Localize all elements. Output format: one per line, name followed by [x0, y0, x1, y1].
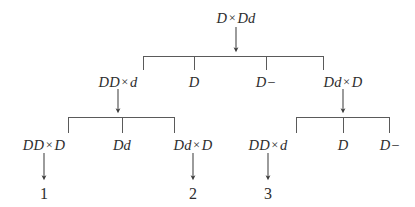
node-row2-2: Dd [113, 138, 131, 153]
node-row2-2-left: Dd [113, 137, 131, 153]
node-row2-4-left: DD [248, 137, 269, 153]
node-row1-1-right: d [130, 74, 137, 90]
node-row2-3: Dd×D [173, 138, 212, 153]
node-row2-1-left: DD [23, 137, 44, 153]
outcome-3: 3 [264, 186, 272, 202]
node-row1-2: D [189, 75, 200, 90]
cross-operator-icon: × [227, 11, 237, 25]
node-row1-1: DD×d [98, 75, 137, 90]
node-row2-3-left: Dd [173, 137, 191, 153]
cross-operator-icon: × [44, 138, 54, 152]
node-row2-4: DD×d [248, 138, 287, 153]
node-row2-6-left: D− [380, 137, 401, 153]
outcome-2: 2 [189, 186, 197, 202]
cross-operator-icon: × [120, 75, 130, 89]
node-row2-3-right: D [202, 137, 213, 153]
node-row2-1: DD×D [23, 138, 65, 153]
node-row1-2-left: D [189, 74, 200, 90]
connector-lines [0, 0, 415, 207]
cross-operator-icon: × [342, 75, 352, 89]
node-row1-4: Dd×D [323, 75, 362, 90]
node-root: D×Dd [216, 11, 255, 26]
node-row2-5-left: D [338, 137, 349, 153]
outcome-1: 1 [40, 186, 48, 202]
node-row1-3-left: D− [256, 74, 277, 90]
node-row2-5: D [338, 138, 349, 153]
node-row2-1-right: D [54, 137, 65, 153]
node-row1-1-left: DD [98, 74, 119, 90]
node-row2-6: D− [380, 138, 401, 153]
cross-tree-diagram: D×Dd DD×d D D− Dd×D DD×D Dd Dd×D DD×d D … [0, 0, 415, 207]
cross-operator-icon: × [192, 138, 202, 152]
node-root-left: D [216, 10, 227, 26]
node-row1-4-left: Dd [323, 74, 341, 90]
node-row2-4-right: d [280, 137, 287, 153]
cross-operator-icon: × [270, 138, 280, 152]
node-row1-3: D− [256, 75, 277, 90]
node-row1-4-right: D [352, 74, 363, 90]
node-root-right: Dd [237, 10, 255, 26]
